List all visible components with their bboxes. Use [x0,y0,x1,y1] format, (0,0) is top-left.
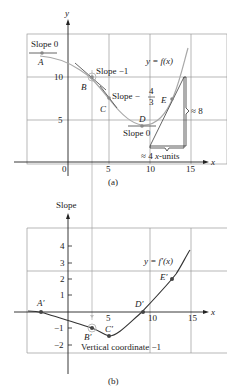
y-axis-label-b: Slope [56,200,77,210]
slope-frac-den: 3 [149,97,154,107]
label-c: C [100,104,107,114]
point-c-prime [107,334,111,338]
slope-frac-num: 4 [149,86,154,96]
x-arrow-b-icon [203,310,209,314]
label-e: E [160,95,167,105]
label-e-prime: E′ [159,272,168,282]
slope-label-a: Slope 0 [31,39,59,49]
guide-marker-icon [90,315,94,318]
label-a: A [37,57,44,67]
x-tick-b-10: 10 [148,313,158,323]
y-arrow-b-icon [66,213,70,219]
caption-b: (b) [108,376,119,386]
x-tick-5: 5 [106,164,111,174]
x-axis-label-a: x [210,157,215,167]
x-tick-b-15: 15 [188,313,198,323]
y-tick-1: 1 [60,290,65,300]
label-d-prime: D′ [134,299,144,309]
slope-label-d: Slope 0 [123,128,151,138]
label-c-prime: C′ [105,324,114,334]
x-tick-10: 10 [146,164,156,174]
point-b [90,75,94,79]
y-arrow-icon [66,19,70,25]
panel-b: Slope x 4 3 2 1 −1 −2 5 10 15 [14,200,227,386]
label-d: D [138,114,146,124]
y-axis-label-a: y [64,8,69,18]
y-ticks-b [68,246,72,345]
point-a [40,51,44,55]
tangent-e [150,77,184,146]
panel-a: y x 0 5 10 15 5 10 ≈ 8 ≈ 4 x-units A B [14,8,227,320]
slope-label-b: Slope −1 [96,66,128,76]
point-b-prime [90,326,94,330]
caption-a: (a) [108,177,118,187]
slope-label-c: Slope − [112,91,140,101]
x-arrow-icon [203,160,209,164]
point-d-prime [141,310,145,314]
curve-label-f-prime: y = f′(x) [143,256,173,266]
x-tick-15: 15 [186,164,196,174]
x-axis-label-b: x [210,307,215,317]
y-tick-neg1: −1 [54,323,64,333]
derivative-diagram: y x 0 5 10 15 5 10 ≈ 8 ≈ 4 x-units A B [0,0,227,390]
annotation-vertical-coordinate: Vertical coordinate −1 [81,342,161,352]
curve-label-f: y = f(x) [145,56,173,66]
point-e [170,97,174,101]
y-tick-10: 10 [54,72,64,82]
point-c [107,96,111,100]
label-b: B [81,82,87,92]
point-a-prime [39,310,43,314]
y-tick-4: 4 [60,241,65,251]
point-e-prime [170,277,174,281]
y-tick-neg2: −2 [54,340,64,350]
rise-brace [184,77,189,146]
y-tick-3: 3 [60,258,65,268]
rise-label: ≈ 8 [191,106,203,116]
label-b-prime: B′ [84,332,92,342]
grid-b [27,228,227,353]
run-label: ≈ 4 x-units [141,151,180,161]
y-tick-2: 2 [60,274,65,284]
x-tick-0: 0 [62,164,67,174]
label-a-prime: A′ [36,298,45,308]
y-tick-5: 5 [58,115,63,125]
x-tick-b-5: 5 [106,313,111,323]
